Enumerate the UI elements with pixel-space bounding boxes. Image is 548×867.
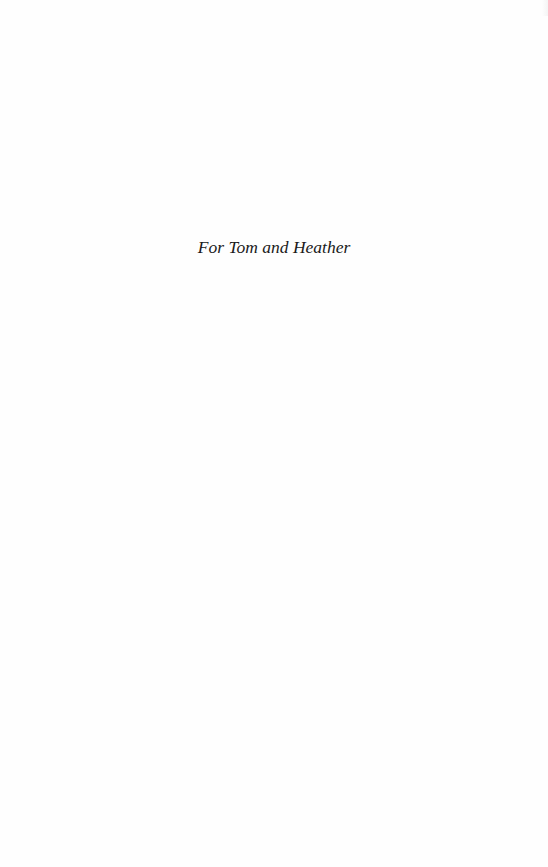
dedication-text: For Tom and Heather bbox=[0, 236, 548, 258]
page-edge-shade bbox=[542, 0, 548, 16]
book-page: For Tom and Heather bbox=[0, 0, 548, 867]
